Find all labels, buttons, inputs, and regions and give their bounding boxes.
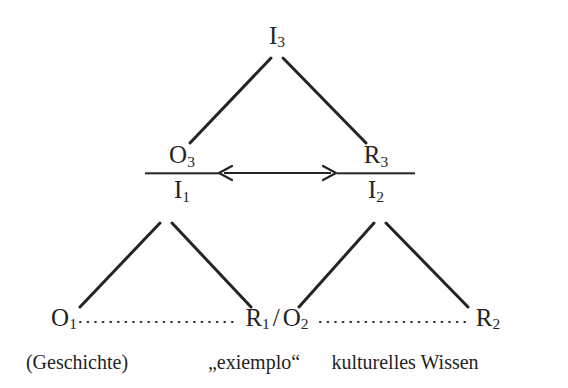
- node-o1: O1: [51, 305, 77, 332]
- right-fraction-numerator-label: R: [364, 141, 381, 168]
- node-o2-subscript: 2: [301, 315, 309, 332]
- left-fraction-denominator-subscript: 1: [182, 187, 190, 204]
- left-fraction-denominator: I1: [145, 175, 219, 206]
- edge-i1-to-r1: [172, 223, 251, 307]
- left-fraction-numerator-subscript: 3: [187, 153, 195, 170]
- right-fraction-denominator-subscript: 2: [376, 187, 384, 204]
- right-fraction-numerator: R3: [337, 140, 415, 171]
- right-fraction-numerator-subscript: 3: [380, 153, 388, 170]
- node-right-fraction: R3 I2: [337, 140, 415, 205]
- caption-kulturelles-wissen: kulturelles Wissen: [331, 352, 478, 372]
- node-o2-label: O: [283, 304, 301, 331]
- node-r1-o2: R1/O2: [245, 305, 308, 332]
- node-left-fraction: O3 I1: [145, 140, 219, 205]
- node-separator-slash: /: [270, 304, 283, 331]
- edge-i2-to-r2: [386, 223, 468, 307]
- node-r2-label: R: [476, 304, 493, 331]
- node-r2: R2: [476, 305, 500, 332]
- left-fraction-numerator-label: O: [169, 141, 187, 168]
- left-fraction-bar: [145, 172, 219, 174]
- edge-i1-to-o1: [80, 223, 160, 307]
- right-fraction-bar: [337, 172, 415, 174]
- bidirectional-arrow: [219, 166, 336, 180]
- right-fraction-denominator: I2: [337, 175, 415, 206]
- edge-i2-to-o2: [299, 223, 374, 307]
- caption-exiemplo: „exiemplo“: [208, 352, 300, 372]
- node-o1-subscript: 1: [69, 315, 77, 332]
- node-r2-subscript: 2: [492, 315, 500, 332]
- node-i3-subscript: 3: [277, 33, 285, 50]
- caption-geschichte: (Geschichte): [26, 352, 128, 372]
- edge-apex-to-left-fraction: [190, 58, 271, 143]
- diagram-canvas: I3 O3 I1 R3 I2 O1 R1/O2 R2 (Geschichte) …: [0, 0, 568, 388]
- edge-apex-to-right-fraction: [283, 58, 366, 143]
- node-o1-label: O: [51, 304, 69, 331]
- node-i3: I3: [269, 23, 285, 50]
- node-r1-label: R: [245, 304, 262, 331]
- left-fraction-numerator: O3: [145, 140, 219, 171]
